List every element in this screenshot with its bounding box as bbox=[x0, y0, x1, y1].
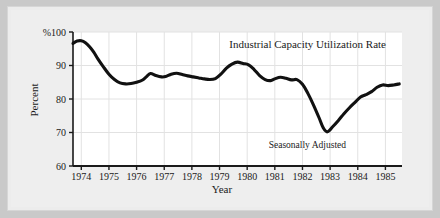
x-tick-label: 1977 bbox=[154, 171, 174, 182]
chart-title: Industrial Capacity Utilization Rate bbox=[229, 38, 386, 50]
x-tick-label: 1985 bbox=[375, 171, 395, 182]
y-tick-label: 70 bbox=[56, 127, 66, 138]
x-tick-label: 1984 bbox=[348, 171, 368, 182]
x-tick-label: 1982 bbox=[292, 171, 312, 182]
x-axis-title: Year bbox=[212, 183, 233, 195]
chart-annotation: Seasonally Adjusted bbox=[269, 140, 347, 150]
x-tick-label: 1974 bbox=[71, 171, 91, 182]
x-tick-label: 1983 bbox=[320, 171, 340, 182]
x-tick-label: 1979 bbox=[210, 171, 230, 182]
y-tick-label: 90 bbox=[56, 60, 66, 71]
x-tick-label: 1978 bbox=[182, 171, 202, 182]
y-tick-label: 80 bbox=[56, 94, 66, 105]
figure-container: %10090807060 197419751976197719781979198… bbox=[0, 0, 440, 218]
x-tick-label: 1980 bbox=[237, 171, 257, 182]
x-tick-label: 1981 bbox=[265, 171, 285, 182]
y-tick-label: 60 bbox=[56, 161, 66, 172]
y-axis-title: Percent bbox=[28, 84, 40, 117]
y-axis-tick-labels: %10090807060 bbox=[43, 27, 66, 172]
x-tick-label: 1975 bbox=[99, 171, 119, 182]
capacity-utilization-chart: %10090807060 197419751976197719781979198… bbox=[0, 0, 440, 218]
y-tick-label: %100 bbox=[43, 27, 66, 38]
x-tick-label: 1976 bbox=[127, 171, 147, 182]
x-axis-tick-labels: 1974197519761977197819791980198119821983… bbox=[71, 171, 395, 182]
